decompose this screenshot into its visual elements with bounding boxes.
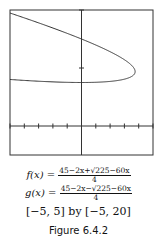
g-fraction: 45−2x−√225−60x 4 [60,185,132,202]
g-label: g(x) = [25,187,60,198]
f-label: f(x) = [26,169,58,180]
viewing-window: [−5, 5] by [−5, 20] [0,205,157,218]
f-denominator: 4 [58,176,130,184]
equation-f: f(x) = 45−2x+√225−60x 4 [0,167,157,184]
g-denominator: 4 [60,194,132,202]
graph-plot [0,0,157,165]
figure-label: Figure 6.4.2 [0,225,157,236]
equation-g: g(x) = 45−2x−√225−60x 4 [0,185,157,202]
f-fraction: 45−2x+√225−60x 4 [58,167,130,184]
curve-f-and-g [10,13,135,82]
